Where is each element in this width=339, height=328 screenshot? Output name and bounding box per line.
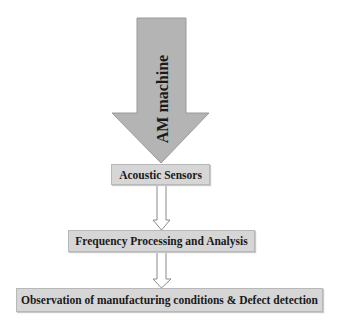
observation-box: Observation of manufacturing conditions … — [16, 288, 323, 312]
am-machine-label: AM machine — [153, 47, 173, 151]
acoustic-sensors-label: Acoustic Sensors — [119, 169, 202, 181]
observation-label: Observation of manufacturing conditions … — [21, 294, 318, 306]
hollow-arrow-1 — [153, 185, 170, 230]
acoustic-sensors-box: Acoustic Sensors — [111, 164, 210, 185]
frequency-processing-label: Frequency Processing and Analysis — [75, 235, 247, 247]
hollow-arrow-2 — [153, 252, 171, 288]
frequency-processing-box: Frequency Processing and Analysis — [68, 230, 255, 252]
